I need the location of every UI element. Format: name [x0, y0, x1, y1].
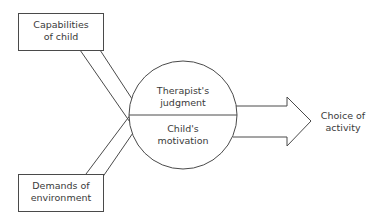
child-motivation-line2: motivation: [143, 135, 223, 147]
capabilities-label: Capabilities of child: [18, 19, 104, 43]
therapist-judgment-label: Therapist's judgment: [143, 85, 223, 109]
demands-line1: Demands of: [18, 180, 104, 192]
child-motivation-line1: Child's: [143, 123, 223, 135]
demands-line2: environment: [18, 192, 104, 204]
therapist-judgment-line1: Therapist's: [143, 85, 223, 97]
child-motivation-label: Child's motivation: [143, 123, 223, 147]
choice-of-activity-line2: activity: [314, 122, 372, 134]
choice-of-activity-label: Choice of activity: [314, 110, 372, 134]
capabilities-line2: of child: [18, 31, 104, 43]
capabilities-line1: Capabilities: [18, 19, 104, 31]
demands-label: Demands of environment: [18, 180, 104, 204]
choice-of-activity-line1: Choice of: [314, 110, 372, 122]
therapist-judgment-line2: judgment: [143, 97, 223, 109]
output-arrow: [233, 97, 311, 146]
